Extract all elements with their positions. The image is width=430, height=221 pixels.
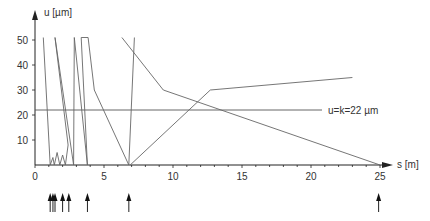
reference-line: u=k=22 µm (35, 105, 378, 116)
y-tick-label: 30 (17, 85, 29, 96)
y-tick-label: 50 (17, 35, 29, 46)
x-axis: s [m] (35, 159, 419, 170)
series-trajectory (43, 38, 134, 166)
data-series (43, 38, 380, 166)
x-tick-label: 0 (32, 171, 38, 182)
x-axis-label: s [m] (397, 159, 419, 170)
event-arrows (48, 193, 381, 212)
series-ascending (130, 78, 352, 166)
x-tick-label: 25 (374, 171, 386, 182)
chart: u [µm] s [m] 0510152025 1020304050 u=k=2… (0, 0, 430, 221)
x-ticks: 0510152025 (32, 165, 386, 182)
x-tick-label: 20 (305, 171, 317, 182)
y-ticks: 1020304050 (17, 35, 35, 146)
event-arrow-icon (66, 193, 71, 212)
x-tick-label: 15 (236, 171, 248, 182)
y-axis: u [µm] (32, 7, 72, 165)
x-tick-label: 5 (101, 171, 107, 182)
event-arrow-icon (376, 193, 381, 212)
event-arrow-icon (126, 193, 131, 212)
x-tick-label: 10 (167, 171, 179, 182)
y-tick-label: 10 (17, 135, 29, 146)
series-descending (122, 38, 380, 166)
y-axis-label: u [µm] (44, 7, 72, 18)
x-axis-arrow-icon (382, 162, 393, 168)
reference-line-label: u=k=22 µm (328, 105, 378, 116)
y-tick-label: 40 (17, 60, 29, 71)
event-arrow-icon (60, 193, 65, 212)
event-arrow-icon (85, 193, 90, 212)
event-arrow-icon (48, 193, 53, 212)
y-tick-label: 20 (17, 110, 29, 121)
y-axis-arrow-icon (32, 10, 38, 20)
